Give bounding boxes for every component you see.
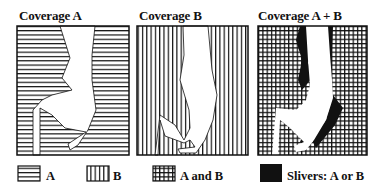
panel-title-coverage-a-plus-b: Coverage A + B <box>258 8 342 24</box>
panel-coverage-b <box>137 26 248 155</box>
legend-swatch-b <box>87 166 109 181</box>
overlay-diagram <box>0 0 384 191</box>
legend-swatch-slivers <box>260 164 282 182</box>
legend-swatch-a-and-b <box>153 166 175 181</box>
legend <box>18 164 282 182</box>
panel-coverage-a <box>17 26 129 155</box>
legend-label-b: B <box>113 169 121 184</box>
legend-label-slivers: Slivers: A or B <box>287 169 364 184</box>
panel-title-coverage-b: Coverage B <box>139 8 202 24</box>
legend-swatch-a <box>18 166 40 181</box>
panel-title-coverage-a: Coverage A <box>19 8 82 24</box>
legend-label-a-and-b: A and B <box>180 169 223 184</box>
panel-coverage-a-plus-b <box>258 26 367 155</box>
legend-label-a: A <box>46 169 55 184</box>
